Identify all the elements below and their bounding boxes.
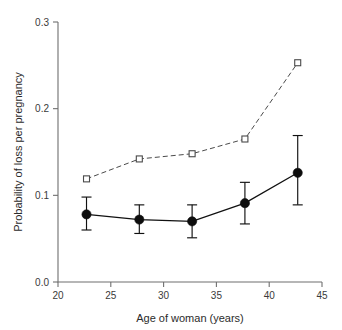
series-open-squares	[84, 60, 301, 182]
x-tick-label: 20	[52, 290, 64, 301]
x-tick-label: 25	[105, 290, 117, 301]
filled-circle-marker	[293, 168, 302, 177]
filled-circle-marker	[188, 217, 197, 226]
chart-figure: 202530354045 0.00.10.20.3 Age of woman (…	[0, 0, 342, 330]
filled-circle-marker	[82, 210, 91, 219]
open-square-marker	[136, 156, 142, 162]
x-tick-label: 40	[264, 290, 276, 301]
x-tick-label: 35	[211, 290, 223, 301]
y-axis-ticks: 0.00.10.20.3	[35, 17, 58, 288]
filled-circle-marker	[240, 199, 249, 208]
filled-circle-marker	[135, 215, 144, 224]
chart-canvas: 202530354045 0.00.10.20.3 Age of woman (…	[0, 0, 342, 330]
x-tick-label: 30	[158, 290, 170, 301]
open-square-marker	[295, 60, 301, 66]
open-square-marker	[242, 136, 248, 142]
open-square-line	[87, 63, 298, 179]
x-axis-ticks: 202530354045	[52, 282, 328, 301]
open-square-marker	[84, 176, 90, 182]
y-tick-label: 0.1	[35, 190, 49, 201]
open-square-marker	[189, 151, 195, 157]
y-axis-title: Probability of loss per pregnancy	[12, 72, 24, 232]
y-tick-label: 0.3	[35, 17, 49, 28]
y-tick-label: 0.0	[35, 277, 49, 288]
y-tick-label: 0.2	[35, 103, 49, 114]
x-axis-title: Age of woman (years)	[136, 312, 244, 324]
x-tick-label: 45	[316, 290, 328, 301]
